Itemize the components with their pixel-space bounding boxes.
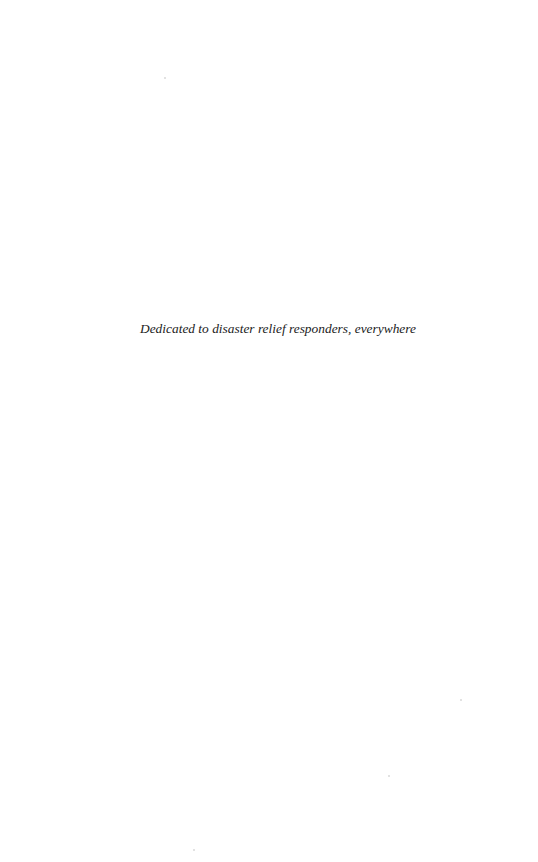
scan-speck: [164, 77, 166, 79]
book-page: Dedicated to disaster relief responders,…: [0, 0, 538, 862]
scan-speck: [388, 775, 390, 777]
dedication-text: Dedicated to disaster relief responders,…: [140, 321, 400, 337]
scan-speck: [460, 699, 462, 701]
scan-speck: [193, 849, 195, 851]
